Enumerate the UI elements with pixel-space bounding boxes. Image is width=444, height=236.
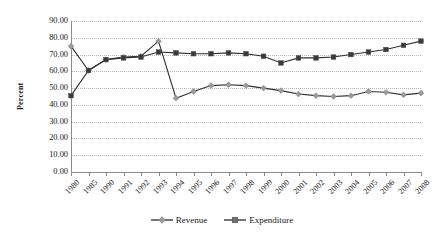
data-point-expenditure bbox=[384, 47, 389, 52]
data-point-expenditure bbox=[279, 61, 284, 66]
data-point-revenue bbox=[243, 83, 249, 89]
legend-label-expenditure: Expenditure bbox=[248, 215, 293, 225]
x-axis-tick-mark bbox=[71, 172, 72, 176]
x-axis-tick-mark bbox=[194, 172, 195, 176]
data-point-revenue bbox=[208, 83, 214, 89]
data-point-revenue bbox=[331, 94, 337, 100]
data-point-revenue bbox=[278, 88, 284, 94]
x-axis-tick-mark bbox=[229, 172, 230, 176]
x-axis-tick-mark bbox=[159, 172, 160, 176]
data-point-expenditure bbox=[191, 51, 196, 56]
x-axis-tick-mark bbox=[299, 172, 300, 176]
legend-item-expenditure: Expenditure bbox=[224, 215, 293, 225]
data-point-revenue bbox=[418, 90, 424, 96]
legend-marker-expenditure-icon bbox=[224, 215, 246, 225]
data-point-revenue bbox=[383, 89, 389, 95]
data-point-expenditure bbox=[226, 51, 231, 56]
x-axis-tick-mark bbox=[246, 172, 247, 176]
y-axis-tick-label: 60.00 bbox=[30, 67, 68, 75]
y-axis-tick-label: 0.00 bbox=[30, 168, 68, 176]
legend-marker-revenue-icon bbox=[151, 215, 173, 225]
data-point-expenditure bbox=[296, 56, 301, 61]
data-point-expenditure bbox=[139, 55, 144, 60]
chart-figure: Percent 90.0080.0070.0060.0050.0040.0030… bbox=[0, 0, 444, 236]
data-point-expenditure bbox=[69, 93, 74, 98]
x-axis-tick-mark bbox=[176, 172, 177, 176]
y-axis-tick-labels: 90.0080.0070.0060.0050.0040.0030.0020.00… bbox=[30, 14, 68, 180]
x-axis-tick-mark bbox=[316, 172, 317, 176]
data-point-expenditure bbox=[314, 56, 319, 61]
y-axis-tick-label: 70.00 bbox=[30, 51, 68, 59]
y-axis-tick-label: 40.00 bbox=[30, 101, 68, 109]
data-point-expenditure bbox=[401, 43, 406, 48]
x-axis-tick-mark bbox=[264, 172, 265, 176]
x-axis-tick-mark bbox=[421, 172, 422, 176]
legend-item-revenue: Revenue bbox=[151, 215, 208, 225]
y-axis-tick-label: 30.00 bbox=[30, 118, 68, 126]
y-axis-tick-label: 10.00 bbox=[30, 151, 68, 159]
data-point-expenditure bbox=[121, 56, 126, 61]
data-point-expenditure bbox=[331, 55, 336, 60]
data-point-expenditure bbox=[419, 39, 424, 44]
series-layer bbox=[71, 21, 421, 172]
x-axis-tick-mark bbox=[124, 172, 125, 176]
data-point-revenue bbox=[366, 89, 372, 95]
data-point-expenditure bbox=[86, 68, 91, 73]
x-axis-tick-mark bbox=[211, 172, 212, 176]
legend-label-revenue: Revenue bbox=[175, 215, 208, 225]
y-axis-tick-label: 50.00 bbox=[30, 84, 68, 92]
data-point-expenditure bbox=[366, 50, 371, 55]
x-axis-tick-mark bbox=[281, 172, 282, 176]
chart-legend: Revenue Expenditure bbox=[0, 212, 444, 228]
data-point-revenue bbox=[261, 85, 267, 91]
y-axis-tick-label: 20.00 bbox=[30, 134, 68, 142]
data-point-revenue bbox=[173, 95, 179, 101]
data-point-expenditure bbox=[209, 51, 214, 56]
data-point-revenue bbox=[226, 82, 232, 88]
data-point-revenue bbox=[401, 92, 407, 98]
data-point-revenue bbox=[313, 93, 319, 99]
data-point-expenditure bbox=[174, 51, 179, 56]
data-point-expenditure bbox=[349, 52, 354, 57]
data-point-revenue bbox=[348, 93, 354, 99]
x-axis-tick-mark bbox=[106, 172, 107, 176]
x-axis-tick-mark bbox=[369, 172, 370, 176]
data-point-revenue bbox=[296, 91, 302, 97]
data-point-expenditure bbox=[104, 57, 109, 62]
x-axis-tick-mark bbox=[89, 172, 90, 176]
x-axis-tick-mark bbox=[334, 172, 335, 176]
data-point-expenditure bbox=[244, 51, 249, 56]
x-axis-tick-mark bbox=[141, 172, 142, 176]
y-axis-tick-label: 80.00 bbox=[30, 34, 68, 42]
x-axis-tick-mark bbox=[386, 172, 387, 176]
data-point-revenue bbox=[191, 89, 197, 95]
data-point-expenditure bbox=[156, 50, 161, 55]
x-axis-tick-mark bbox=[404, 172, 405, 176]
y-axis-tick-label: 90.00 bbox=[30, 17, 68, 25]
x-axis-tick-mark bbox=[351, 172, 352, 176]
y-axis-title: Percent bbox=[14, 60, 28, 132]
data-point-expenditure bbox=[261, 54, 266, 59]
